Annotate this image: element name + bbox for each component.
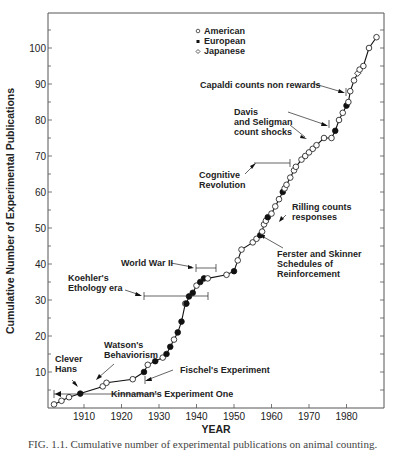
legend: American European Japanese xyxy=(196,26,246,56)
x-tick-label: 1980 xyxy=(335,411,358,422)
annotation-wwii: World War II xyxy=(121,258,173,268)
data-point-american xyxy=(171,337,177,343)
annotation-davis-line1: Davis xyxy=(234,107,258,117)
data-point-american xyxy=(287,175,293,181)
y-tick-label: 60 xyxy=(35,187,47,198)
y-tick-label: 100 xyxy=(29,43,46,54)
annotation-arrowheads xyxy=(55,89,345,397)
data-point-american xyxy=(347,88,353,94)
annotation-rilling-line1: Rilling counts xyxy=(292,202,352,212)
figure-caption: FIG. 1.1. Cumulative number of experimen… xyxy=(28,438,377,450)
annotation-koehler-line1: Koehler's xyxy=(68,273,109,283)
x-axis-ticks: 19101920193019401950196019701980 xyxy=(73,404,358,422)
annotation-capaldi: Capaldi counts non rewards xyxy=(200,80,321,90)
annotation-fischel: Fischel's Experiment xyxy=(180,365,270,375)
annotation-cognitive-line1: Cognitive xyxy=(199,170,240,180)
data-point-american xyxy=(205,276,211,282)
annotation-ferster-line1: Ferster and Skinner xyxy=(277,249,362,259)
y-tick-label: 50 xyxy=(35,223,47,234)
data-point-american xyxy=(259,229,265,235)
annotation-watson-line1: Watson's xyxy=(104,340,143,350)
data-point-european xyxy=(141,369,147,375)
legend-japanese-marker xyxy=(196,50,200,54)
y-tick-label: 80 xyxy=(35,115,47,126)
legend-american-label: American xyxy=(204,26,245,36)
y-tick-label: 90 xyxy=(35,79,47,90)
data-point-american xyxy=(321,135,327,141)
data-point-american xyxy=(66,394,72,400)
annotation-cognitive-line2: Revolution xyxy=(199,180,246,190)
data-point-european xyxy=(179,319,185,325)
data-point-american xyxy=(340,110,346,116)
y-tick-label: 40 xyxy=(35,259,47,270)
legend-european-label: European xyxy=(204,36,246,46)
annotation-clever-line1: Clever xyxy=(55,354,83,364)
annotation-rilling-line2: responses xyxy=(292,212,337,222)
annotation-koehler-line2: Ethology era xyxy=(68,283,124,293)
y-tick-label: 10 xyxy=(35,367,47,378)
data-point-american xyxy=(130,376,136,382)
x-tick-label: 1940 xyxy=(185,411,208,422)
legend-american-marker xyxy=(196,29,200,33)
annotation-ferster-line3: Reinforcement xyxy=(277,269,340,279)
data-point-american xyxy=(276,196,282,202)
data-point-american xyxy=(145,362,151,368)
data-point-american xyxy=(351,78,357,84)
annotation-watson-line2: Behaviorism xyxy=(104,350,158,360)
x-axis-title: YEAR xyxy=(201,423,231,435)
data-point-european xyxy=(332,128,338,134)
data-point-european xyxy=(175,330,181,336)
y-tick-label: 20 xyxy=(35,331,47,342)
data-point-european xyxy=(184,301,190,307)
data-point-american xyxy=(293,164,299,170)
x-tick-label: 1930 xyxy=(148,411,171,422)
data-point-american xyxy=(374,34,380,40)
legend-european-marker xyxy=(197,40,200,43)
annotation-clever-line2: Hans xyxy=(55,364,77,374)
data-point-european xyxy=(164,351,170,357)
data-point-european xyxy=(231,268,237,274)
y-tick-label: 30 xyxy=(35,295,47,306)
data-point-american xyxy=(329,135,335,141)
x-tick-label: 1920 xyxy=(110,411,133,422)
data-point-american xyxy=(346,99,352,105)
annotation-kinnaman: Kinnaman's Experiment One xyxy=(111,389,233,399)
x-tick-label: 1910 xyxy=(73,411,96,422)
data-point-american xyxy=(361,63,367,69)
data-point-american xyxy=(336,117,342,123)
annotation-davis-line2: and Seligman xyxy=(234,117,293,127)
data-point-european xyxy=(190,290,196,296)
data-point-american xyxy=(59,398,65,404)
x-tick-label: 1950 xyxy=(223,411,246,422)
data-point-european xyxy=(77,391,83,397)
annotation-ferster-line2: Schedules of xyxy=(277,259,334,269)
data-point-european xyxy=(167,344,173,350)
data-point-american xyxy=(224,272,230,278)
annotations xyxy=(54,84,346,398)
x-tick-label: 1960 xyxy=(260,411,283,422)
x-tick-label: 1970 xyxy=(298,411,321,422)
data-point-american xyxy=(272,204,278,210)
legend-japanese-label: Japanese xyxy=(204,46,245,56)
annotation-davis-line3: count shocks xyxy=(234,127,292,137)
data-point-american xyxy=(284,182,290,188)
data-point-american xyxy=(239,247,245,253)
data-point-american xyxy=(235,258,241,264)
data-point-american xyxy=(314,142,320,148)
data-point-american xyxy=(366,45,372,51)
data-point-american xyxy=(104,380,110,386)
data-point-american xyxy=(269,211,275,217)
y-tick-label: 70 xyxy=(35,151,47,162)
data-point-american xyxy=(51,402,57,408)
y-axis-title: Cumulative Number of Experimental Public… xyxy=(4,88,16,334)
